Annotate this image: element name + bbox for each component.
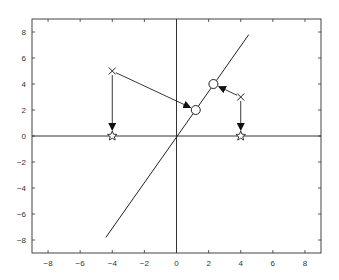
x-tick-label: −2 xyxy=(140,259,150,268)
circle-marker-icon xyxy=(191,106,200,115)
x-tick-label: −4 xyxy=(108,259,118,268)
y-tick-labels: −8−6−4−202468 xyxy=(17,28,27,245)
y-tick-label: 0 xyxy=(22,132,27,141)
y-tick-label: −4 xyxy=(17,184,27,193)
x-tick-labels: −8−6−4−202468 xyxy=(43,259,307,268)
x-tick-label: 4 xyxy=(238,259,243,268)
y-tick-label: −6 xyxy=(17,210,27,219)
x-tick-label: 2 xyxy=(206,259,211,268)
circle-marker-icon xyxy=(209,80,218,89)
y-tick-label: 6 xyxy=(22,54,27,63)
x-tick-label: 0 xyxy=(174,259,179,268)
x-tick-label: −6 xyxy=(76,259,86,268)
y-tick-label: −8 xyxy=(17,236,27,245)
y-tick-label: 8 xyxy=(22,28,27,37)
chart-canvas: −8−6−4−202468 −8−6−4−202468 xyxy=(0,0,339,280)
x-tick-label: 6 xyxy=(271,259,276,268)
x-tick-label: 8 xyxy=(303,259,308,268)
y-tick-label: 2 xyxy=(22,106,27,115)
y-tick-label: 4 xyxy=(22,80,27,89)
x-tick-label: −8 xyxy=(43,259,53,268)
y-tick-label: −2 xyxy=(17,158,27,167)
